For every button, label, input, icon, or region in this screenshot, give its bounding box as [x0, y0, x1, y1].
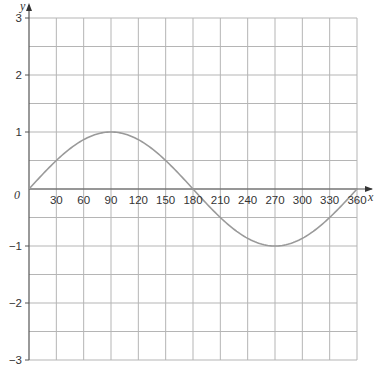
sine-graph: −3−2−11233060901201501802102402703003303…	[0, 0, 379, 371]
x-tick-label: 150	[156, 194, 175, 206]
x-tick-label: 210	[211, 194, 230, 206]
x-tick-label: 360	[347, 194, 366, 206]
y-tick-label: 3	[16, 12, 22, 24]
x-tick-label: 60	[77, 194, 90, 206]
x-tick-label: 270	[265, 194, 284, 206]
y-axis-arrow-icon	[26, 3, 32, 11]
y-tick-label: −1	[9, 240, 22, 252]
x-tick-label: 120	[129, 194, 148, 206]
x-tick-label: 240	[238, 194, 257, 206]
y-tick-label: 1	[16, 126, 22, 138]
x-tick-label: 90	[105, 194, 118, 206]
x-axis-label: x	[367, 190, 374, 204]
tick-labels: −3−2−11233060901201501802102402703003303…	[9, 0, 374, 366]
origin-label: 0	[14, 188, 20, 202]
y-axis-label: y	[19, 0, 26, 13]
y-tick-label: 2	[16, 69, 22, 81]
x-tick-label: 180	[183, 194, 202, 206]
x-tick-label: 330	[320, 194, 339, 206]
y-tick-label: −2	[9, 297, 22, 309]
y-tick-label: −3	[9, 354, 22, 366]
x-tick-label: 30	[50, 194, 63, 206]
x-tick-label: 300	[293, 194, 312, 206]
axes	[25, 3, 373, 360]
